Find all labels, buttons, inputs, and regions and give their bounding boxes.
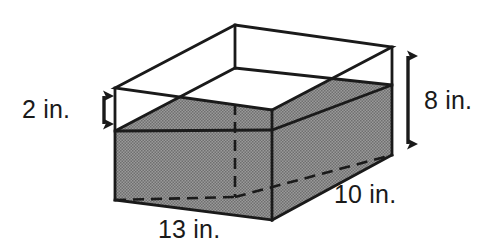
prism-diagram: 2 in. 8 in. 13 in. 10 in.	[0, 0, 504, 249]
label-front-width: 13 in.	[158, 217, 220, 242]
prism-svg	[0, 0, 504, 249]
label-total-height: 8 in.	[424, 88, 472, 113]
label-side-length: 10 in.	[334, 182, 396, 207]
label-empty-depth: 2 in.	[22, 97, 70, 122]
liquid-front-left-face	[115, 130, 272, 220]
